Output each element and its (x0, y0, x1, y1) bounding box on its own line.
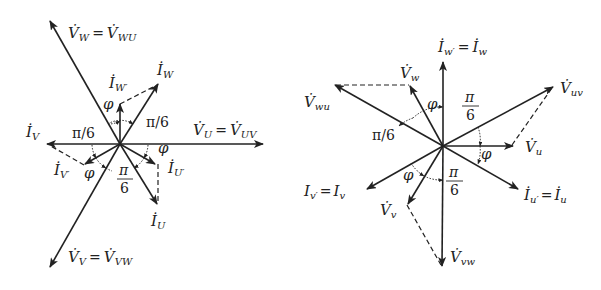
angle-arc-pi6-right (478, 127, 480, 146)
svg-text:V̇uv: V̇uv (560, 79, 583, 98)
label-vwu: V̇wu (304, 93, 330, 112)
svg-text:İu′=İu: İu′=İu (523, 186, 567, 205)
label-vw: V̇W=V̇WU (68, 24, 137, 43)
angle-arc-pi6-bottom (106, 168, 112, 171)
label-pi6-frac-bottom: π 6 (117, 162, 133, 196)
label-pi6-left: π/6 (372, 127, 395, 143)
svg-text:İW′: İW′ (108, 74, 128, 93)
angle-arc-pi6-bottom (424, 176, 443, 180)
phasor-diagram-figure: V̇W=V̇WU İW İW′ φ π/6 π/6 V̇U=V̇UV İV İV… (0, 0, 601, 290)
svg-text:Iv′=Iv: Iv′=Iv (303, 182, 346, 201)
svg-text:π: π (464, 89, 475, 105)
angle-arc-phi-left (96, 158, 106, 168)
label-vvw: V̇vw (450, 248, 475, 267)
label-phi-left: φ (84, 164, 95, 182)
label-pi6-upper-right: π/6 (146, 114, 169, 130)
label-iv-eq: Iv′=Iv (303, 182, 346, 201)
svg-text:6: 6 (450, 182, 459, 198)
label-vu: V̇u (525, 138, 542, 157)
label-phi-right: φ (481, 145, 492, 163)
label-vuv: V̇uv (560, 79, 583, 98)
label-phi-top: φ (103, 95, 114, 113)
dashed-vu-component (512, 88, 552, 145)
label-phi-left: φ (403, 166, 414, 184)
label-vw: V̇w (400, 64, 420, 83)
svg-text:İV′: İV′ (53, 161, 70, 180)
left-phasor-diagram: V̇W=V̇WU İW İW′ φ π/6 π/6 V̇U=V̇UV İV İV… (25, 21, 263, 267)
label-iu: İU (150, 212, 166, 231)
svg-text:V̇V=V̇VW: V̇V=V̇VW (68, 248, 133, 267)
svg-text:V̇w: V̇w (400, 64, 420, 83)
svg-text:İV: İV (25, 123, 41, 142)
svg-text:V̇U=V̇UV: V̇U=V̇UV (193, 121, 258, 140)
svg-text:6: 6 (466, 107, 475, 123)
dashed-vv-component (407, 205, 441, 265)
angle-arc-phi-right (144, 145, 148, 158)
label-pi6-frac-top: π 6 (462, 89, 479, 123)
label-iw-eq: İw′=İw (437, 38, 487, 57)
label-iw-prime: İW′ (108, 74, 128, 93)
label-iw: İW (156, 61, 174, 80)
label-iv: İV (25, 123, 41, 142)
label-pi6-left: π/6 (72, 125, 95, 141)
label-phi-right: φ (158, 139, 169, 157)
svg-text:V̇vw: V̇vw (450, 248, 475, 267)
angle-arc-phi-right (478, 146, 480, 164)
svg-text:İW: İW (156, 61, 174, 80)
svg-text:π: π (448, 164, 459, 180)
label-iu-eq: İu′=İu (523, 186, 567, 205)
svg-text:π: π (118, 162, 129, 178)
label-vv: V̇V=V̇VW (68, 248, 133, 267)
label-iu-prime: İU′ (167, 159, 185, 178)
label-iv-prime: İV′ (53, 161, 70, 180)
label-vv: V̇v (380, 201, 397, 220)
svg-text:V̇wu: V̇wu (304, 93, 330, 112)
phasor-vuv (443, 87, 553, 146)
svg-text:V̇u: V̇u (525, 138, 542, 157)
angle-arc-iv (92, 145, 96, 158)
svg-text:V̇W=V̇WU: V̇W=V̇WU (68, 24, 137, 43)
svg-text:İw′=İw: İw′=İw (437, 38, 487, 57)
svg-text:İU: İU (150, 212, 166, 231)
svg-text:V̇v: V̇v (380, 201, 397, 220)
label-phi-top: φ (427, 95, 438, 113)
svg-text:6: 6 (120, 180, 129, 196)
angle-arc-iu (134, 158, 144, 168)
label-pi6-frac-bottom: π 6 (446, 164, 463, 198)
svg-text:İU′: İU′ (167, 159, 185, 178)
right-phasor-diagram: İw′=İw V̇w V̇wu V̇uv φ π 6 π/6 V̇u φ φ π… (303, 38, 583, 267)
label-vu: V̇U=V̇UV (193, 121, 258, 140)
phasor-vvw (442, 146, 443, 266)
